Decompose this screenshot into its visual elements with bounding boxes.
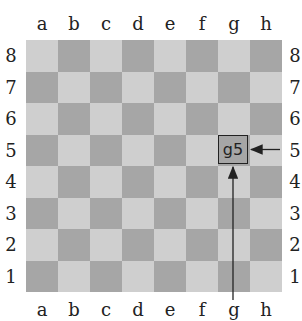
- arrows: [0, 0, 302, 321]
